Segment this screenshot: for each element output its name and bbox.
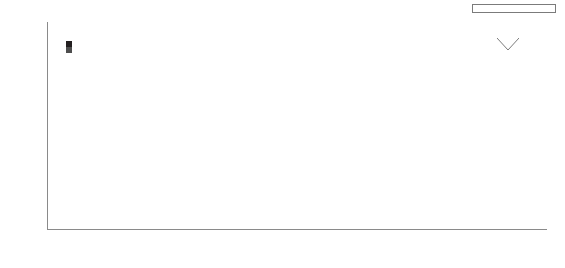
chart-figure [0,0,565,268]
period-callout [472,4,556,13]
legend [66,41,75,53]
plot-area [47,22,547,230]
legend-swatch-icon [66,47,72,53]
callout-tail-icon [497,38,519,51]
legend-item-fetal [66,47,75,53]
bar-series-group [48,22,547,229]
